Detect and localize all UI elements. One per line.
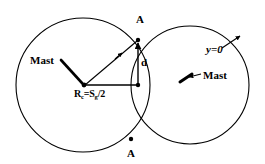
intersection-top-label: A — [136, 14, 144, 25]
hypotenuse-direction-arrow — [115, 53, 122, 59]
diagram-figure: Mast Mast y=0 A A d Rc=Sg/2 — [0, 0, 265, 164]
radius-formula-eq: =S — [84, 88, 95, 99]
intersection-bottom-label: A — [127, 148, 135, 159]
mast-right-label: Mast — [203, 70, 227, 81]
radius-formula-label: Rc=Sg/2 — [74, 89, 105, 99]
hypotenuse-line — [85, 41, 137, 85]
radius-formula-sub2: g — [95, 93, 98, 100]
y-zero-label: y=0 — [206, 44, 223, 55]
right-mast-marker — [180, 74, 192, 82]
right-circle — [131, 26, 249, 144]
intersection-top-dot — [136, 38, 140, 42]
diagram-canvas — [0, 0, 265, 164]
intersection-bottom-dot — [129, 137, 133, 141]
mast-left-leader — [61, 60, 82, 83]
mast-left-label: Mast — [30, 55, 54, 66]
distance-d-label: d — [141, 57, 147, 68]
radius-endpoint-dot — [136, 83, 140, 87]
radius-formula-tail: /2 — [98, 88, 105, 99]
radius-formula-main: R — [74, 88, 81, 99]
radius-formula-sub1: c — [81, 93, 84, 100]
